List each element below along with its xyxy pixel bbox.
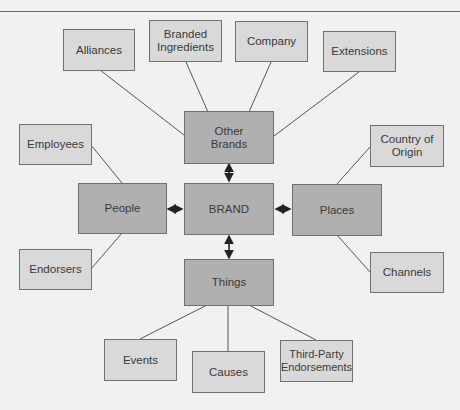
node-channels: Channels	[370, 252, 444, 293]
node-brand: BRAND	[184, 183, 274, 235]
node-label: Events	[123, 354, 158, 367]
node-label: Other Brands	[204, 125, 254, 151]
node-branded-ingredients: Branded Ingredients	[149, 20, 222, 62]
node-alliances: Alliances	[63, 29, 135, 71]
node-label: Alliances	[76, 44, 122, 57]
node-employees: Employees	[19, 124, 92, 165]
node-places: Places	[292, 184, 382, 236]
node-label: Third-Party Endorsements	[281, 348, 352, 374]
node-things: Things	[184, 259, 274, 306]
node-causes: Causes	[192, 351, 265, 393]
node-label: Endorsers	[29, 263, 81, 276]
node-company: Company	[235, 21, 308, 62]
node-label: Things	[212, 276, 247, 289]
node-other-brands: Other Brands	[184, 111, 274, 164]
node-label: Channels	[383, 266, 432, 279]
node-country-of-origin: Country of Origin	[370, 125, 444, 167]
node-label: Country of Origin	[377, 133, 437, 159]
node-label: Branded Ingredients	[154, 28, 218, 54]
node-third-party-endorsements: Third-Party Endorsements	[280, 340, 353, 382]
node-label: Company	[247, 35, 296, 48]
node-people: People	[78, 183, 167, 234]
node-label: Causes	[209, 366, 248, 379]
node-label: Places	[320, 204, 355, 217]
node-label: People	[105, 202, 141, 215]
node-events: Events	[104, 339, 177, 381]
node-label: BRAND	[209, 203, 249, 216]
node-label: Extensions	[331, 45, 387, 58]
node-extensions: Extensions	[323, 31, 396, 72]
node-endorsers: Endorsers	[19, 249, 92, 290]
node-label: Employees	[27, 138, 84, 151]
